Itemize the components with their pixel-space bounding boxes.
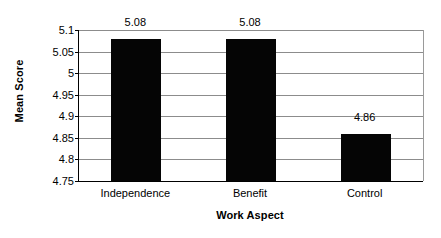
bar-value-label: 5.08 (125, 17, 146, 28)
x-axis-category-label: Independence (100, 187, 170, 199)
y-axis-tick-mark (75, 95, 79, 96)
y-axis-tick-mark (75, 159, 79, 160)
y-axis-tick-label: 4.95 (30, 89, 74, 100)
plot-frame-right (423, 30, 424, 181)
y-axis-tick-mark (75, 73, 79, 74)
gridline (79, 30, 423, 31)
x-axis-category-label: Control (347, 187, 382, 199)
x-axis-category-label: Benefit (233, 187, 267, 199)
y-axis-title-text: Mean Score (13, 59, 25, 122)
y-axis-tick-label: 5.1 (30, 25, 74, 36)
x-axis-title: Work Aspect (78, 209, 422, 221)
bar-value-label: 5.08 (239, 17, 260, 28)
y-axis-tick-mark (75, 30, 79, 31)
bar-chart: Mean Score 5.15.0554.954.94.854.84.75 In… (0, 0, 441, 238)
bar[interactable] (111, 39, 161, 181)
y-axis-tick-label: 5.05 (30, 46, 74, 57)
y-axis-title: Mean Score (8, 0, 30, 181)
y-axis-tick-labels: 5.15.0554.954.94.854.84.75 (30, 0, 74, 238)
y-axis-tick-mark (75, 116, 79, 117)
y-axis-tick-mark (75, 52, 79, 53)
y-axis-tick-mark (75, 138, 79, 139)
y-axis-tick-label: 4.85 (30, 132, 74, 143)
y-axis-tick-mark (75, 181, 79, 182)
bar[interactable] (341, 134, 391, 181)
bar[interactable] (226, 39, 276, 181)
y-axis-tick-label: 5 (30, 68, 74, 79)
y-axis-tick-label: 4.9 (30, 111, 74, 122)
y-axis-tick-label: 4.75 (30, 176, 74, 187)
plot-area (78, 30, 423, 182)
bar-value-label: 4.86 (354, 112, 375, 123)
y-axis-tick-label: 4.8 (30, 154, 74, 165)
